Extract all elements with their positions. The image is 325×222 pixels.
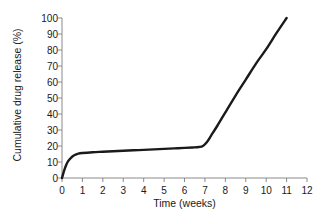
- y-axis-ticks: [58, 18, 62, 178]
- x-axis-label: Time (weeks): [62, 197, 307, 209]
- data-series-line: [62, 18, 287, 178]
- x-axis-ticks: [62, 178, 307, 182]
- plot-area: [0, 0, 325, 222]
- chart-figure: Cumulative drug release (%) 010203040506…: [0, 0, 325, 222]
